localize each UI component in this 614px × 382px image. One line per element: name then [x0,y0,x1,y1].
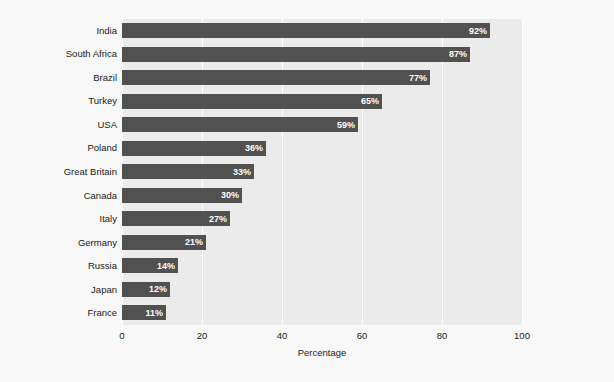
bar-value-label: 77% [409,73,427,82]
bar-value-label: 36% [245,144,263,153]
category-label: Italy [3,214,117,224]
bar: 87% [122,47,470,62]
bar: 65% [122,94,382,109]
category-label: Russia [3,261,117,271]
bar-row: 33% [122,160,522,184]
bar-row: 36% [122,137,522,161]
bar-value-label: 21% [185,238,203,247]
bar-row: 14% [122,254,522,278]
category-label: South Africa [3,49,117,59]
bar-value-label: 59% [337,120,355,129]
bar-row: 77% [122,66,522,90]
bar: 14% [122,258,178,273]
gridline [522,19,523,325]
bar: 92% [122,23,490,38]
x-tick-label: 60 [357,331,368,341]
category-label: Germany [3,238,117,248]
bar: 21% [122,235,206,250]
category-label: Japan [3,285,117,295]
category-label: Brazil [3,73,117,83]
y-axis-category-labels: IndiaSouth AfricaBrazilTurkeyUSAPolandGr… [0,19,117,325]
bar-row: 59% [122,113,522,137]
bar: 77% [122,70,430,85]
bar-row: 12% [122,278,522,302]
category-label: USA [3,120,117,130]
bar-row: 92% [122,19,522,43]
bar-value-label: 87% [449,50,467,59]
bar-value-label: 65% [361,97,379,106]
bar-value-label: 27% [209,214,227,223]
category-label: Great Britain [3,167,117,177]
bar-chart: IndiaSouth AfricaBrazilTurkeyUSAPolandGr… [0,0,614,382]
x-tick-label: 0 [119,331,124,341]
bar: 30% [122,188,242,203]
category-label: Poland [3,143,117,153]
bar-row: 21% [122,231,522,255]
category-label: France [3,308,117,318]
bar-row: 87% [122,43,522,67]
x-tick-label: 80 [437,331,448,341]
bar-value-label: 12% [149,285,167,294]
bar-value-label: 30% [221,191,239,200]
x-tick-label: 20 [197,331,208,341]
bar: 12% [122,282,170,297]
bar-row: 65% [122,90,522,114]
x-tick-label: 100 [514,331,530,341]
category-label: Turkey [3,96,117,106]
bar-row: 27% [122,207,522,231]
category-label: Canada [3,191,117,201]
bar-value-label: 11% [145,308,163,317]
bar: 33% [122,164,254,179]
category-label: India [3,26,117,36]
plot-area: 92%87%77%65%59%36%33%30%27%21%14%12%11% [122,19,522,325]
bar: 27% [122,211,230,226]
x-axis-tick-labels: 020406080100 [122,325,522,347]
bar: 11% [122,305,166,320]
x-tick-label: 40 [277,331,288,341]
bar: 59% [122,117,358,132]
bar-value-label: 33% [233,167,251,176]
bar-value-label: 92% [469,26,487,35]
bar-row: 30% [122,184,522,208]
bar: 36% [122,141,266,156]
x-axis-title: Percentage [122,348,522,358]
bar-value-label: 14% [157,261,175,270]
bar-row: 11% [122,301,522,325]
